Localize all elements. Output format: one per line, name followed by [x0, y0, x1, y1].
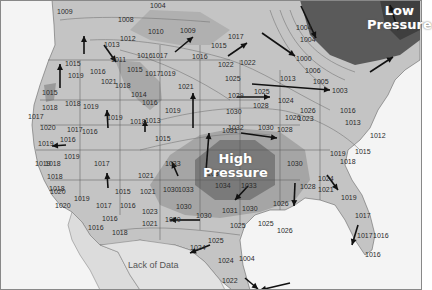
- lack-of-data-label: Lack of Data: [128, 260, 179, 270]
- isobar-value: 1004: [296, 24, 312, 31]
- isobar-value: 1019: [74, 195, 90, 202]
- isobar-value: 1016: [142, 99, 158, 106]
- isobar-value: 1018: [115, 82, 131, 89]
- isobar-value: 1009: [57, 8, 73, 15]
- isobar-value: 1019: [165, 107, 181, 114]
- isobar-value: 1019: [160, 70, 176, 77]
- isobar-value: 1017: [145, 70, 161, 77]
- isobar-value: 1023: [298, 115, 314, 122]
- isobar-value: 1030: [258, 124, 274, 131]
- isobar-value: 1029: [228, 92, 244, 99]
- isobar-value: 1019: [38, 140, 54, 147]
- isobar-value: 1021: [318, 186, 334, 193]
- isobar-value: 1013: [104, 41, 120, 48]
- isobar-value: 1017: [28, 113, 44, 120]
- isobar-value: 1033: [241, 182, 257, 189]
- isobar-value: 1017: [94, 160, 110, 167]
- isobar-value: 1016: [373, 232, 389, 239]
- isobar-value: 1031: [222, 127, 238, 134]
- isobar-value: 1019: [341, 194, 357, 201]
- isobar-value: 1021: [138, 172, 154, 179]
- isobar-value: 1016: [102, 215, 118, 222]
- isobar-value: 1026: [300, 107, 316, 114]
- isobar-value: 1015: [115, 188, 131, 195]
- isobar-value: 1022: [222, 277, 238, 284]
- isobar-value: 1024: [278, 97, 294, 104]
- isobar-value: 1023: [142, 208, 158, 215]
- isobar-value: 1015: [127, 66, 143, 73]
- isobar-value: 1008: [118, 16, 134, 23]
- isobar-value: 1019: [83, 103, 99, 110]
- isobar-value: 1017: [357, 232, 373, 239]
- isobar-value: 1016: [60, 136, 76, 143]
- isobar-value: 1015: [155, 135, 171, 142]
- isobar-value: 1031: [222, 207, 238, 214]
- isobar-value: 1024: [190, 244, 206, 251]
- isobar-value: 1021: [178, 83, 194, 90]
- isobar-value: 1030: [226, 108, 242, 115]
- isobar-value: 1017: [67, 126, 83, 133]
- isobar-value: 1018: [340, 158, 356, 165]
- isobar-value: 1019: [68, 72, 84, 79]
- isobar-value: 1020: [50, 188, 66, 195]
- isobar-value: 1025: [230, 222, 246, 229]
- isobar-value: 1015: [42, 89, 58, 96]
- low-pressure-label: Low Pressure: [367, 4, 432, 31]
- isobar-value: 1014: [131, 91, 147, 98]
- isobar-value: 1000: [296, 55, 312, 62]
- isobar-value: 1015: [355, 148, 371, 155]
- isobar-value: 1025: [254, 88, 270, 95]
- isobar-value: 1025: [225, 75, 241, 82]
- low-label-line1: Low: [367, 4, 432, 18]
- isobar-value: 1030: [242, 205, 258, 212]
- isobar-value: 1012: [120, 35, 136, 42]
- isobar-value: 1010: [148, 28, 164, 35]
- isobar-value: 1028: [253, 102, 269, 109]
- isobar-value: 1017: [96, 202, 112, 209]
- isobar-value: 1016: [120, 202, 136, 209]
- high-label-line2: Pressure: [203, 166, 268, 180]
- isobar-value: 1021: [142, 220, 158, 227]
- isobar-value: 1030: [176, 203, 192, 210]
- isobar-value: 1021: [140, 188, 156, 195]
- isobar-value: 1004: [300, 36, 316, 43]
- isobar-value: 1017: [152, 52, 168, 59]
- isobar-value: 1024: [318, 175, 334, 182]
- isobar-value: 1019: [107, 114, 123, 121]
- high-label-line1: High: [203, 152, 268, 166]
- isobar-value: 1013: [345, 119, 361, 126]
- isobar-value: 1015: [211, 42, 227, 49]
- isobar-value: 1017: [355, 212, 371, 219]
- isobar-value: 1020: [55, 202, 71, 209]
- isobar-value: 1030: [287, 160, 303, 167]
- isobar-value: 1004: [239, 255, 255, 262]
- isobar-value: 1025: [208, 237, 224, 244]
- isobar-value: 1015: [65, 60, 81, 67]
- isobar-value: 1018: [45, 160, 61, 167]
- isobar-value: 1006: [305, 67, 321, 74]
- isobar-value: 1012: [370, 132, 386, 139]
- isobar-value: 1016: [82, 128, 98, 135]
- isobar-value: 1020: [40, 124, 56, 131]
- isobar-value: 1016: [88, 224, 104, 231]
- isobar-value: 1030: [196, 212, 212, 219]
- isobar-value: 1022: [240, 59, 256, 66]
- isobar-value: 1026: [277, 227, 293, 234]
- isobar-value: 1003: [332, 87, 348, 94]
- isobar-value: 1004: [150, 2, 166, 9]
- isobar-value: 1013: [280, 75, 296, 82]
- isobar-value: 1018: [42, 104, 58, 111]
- isobar-value: 1016: [340, 107, 356, 114]
- isobar-value: 1028: [300, 183, 316, 190]
- isobar-value: 1016: [192, 53, 208, 60]
- isobar-value: 1025: [258, 220, 274, 227]
- high-pressure-label: High Pressure: [203, 152, 268, 179]
- isobar-value: 1034: [215, 182, 231, 189]
- isobar-value: 1017: [228, 33, 244, 40]
- isobar-value: 1030: [163, 186, 179, 193]
- isobar-value: 1018: [65, 100, 81, 107]
- isobar-value: 1019: [64, 153, 80, 160]
- isobar-value: 1018: [112, 229, 128, 236]
- isobar-value: 1022: [218, 61, 234, 68]
